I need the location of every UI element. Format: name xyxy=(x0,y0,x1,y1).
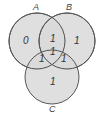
region-ab: 1 xyxy=(50,33,56,44)
region-ac: 1 xyxy=(39,53,45,64)
set-label-c: C xyxy=(49,104,56,114)
set-label-b: B xyxy=(66,2,72,12)
region-abc: 1 xyxy=(50,46,56,57)
region-c-only: 1 xyxy=(50,76,56,87)
circles xyxy=(9,13,95,104)
set-label-a: A xyxy=(32,2,39,12)
region-bc: 1 xyxy=(61,53,67,64)
region-a-only: 0 xyxy=(23,35,29,46)
venn-diagram: A B C 0 1 1 1 1 1 1 xyxy=(0,0,104,117)
region-b-only: 1 xyxy=(74,35,80,46)
